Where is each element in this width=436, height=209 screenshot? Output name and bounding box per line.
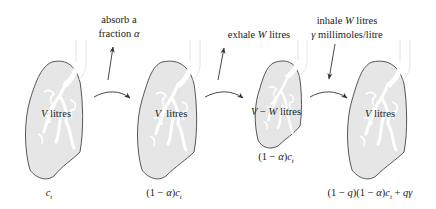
exhale-label: exhale W litres bbox=[228, 30, 290, 41]
lung-2-concentration: (1 − α)ct bbox=[146, 188, 182, 201]
transition-arrow-2 bbox=[205, 92, 243, 98]
lung-3-concentration: (1 − α)ct bbox=[258, 152, 294, 165]
lung-4-volume-label: V litres bbox=[365, 109, 395, 120]
lung-2-volume-label: V litres bbox=[155, 109, 188, 120]
lung-1-volume-label: V litres bbox=[41, 109, 71, 120]
transition-arrow-1 bbox=[94, 92, 130, 98]
absorb-label-line1: absorb a bbox=[101, 15, 136, 26]
inhale-label-line1: inhale W litres bbox=[317, 16, 378, 27]
lung-4-concentration: (1 − q)(1 − α)ct + qγ bbox=[328, 188, 413, 201]
inhale-label-line2: γ millimoles/litre bbox=[311, 30, 383, 41]
inhale-arrow bbox=[329, 44, 335, 79]
exhale-arrow bbox=[218, 48, 224, 80]
absorb-label-line2: fraction α bbox=[99, 29, 140, 40]
transition-arrow-3 bbox=[310, 92, 347, 98]
absorb-arrow bbox=[108, 47, 113, 80]
lung-3 bbox=[255, 38, 308, 148]
lung-1-concentration: ct bbox=[46, 188, 53, 201]
lung-3-volume-label: V − W litres bbox=[251, 107, 301, 118]
